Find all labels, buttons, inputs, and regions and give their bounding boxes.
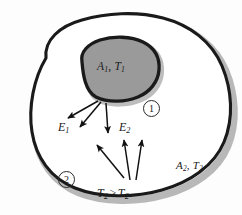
figure-canvas xyxy=(0,0,242,215)
e1-sub: 1 xyxy=(65,126,69,135)
radiation-enclosure-figure: A1, T1 E1 E2 A2, T2 T2>T2 1 2 xyxy=(0,0,242,215)
surface-badge-2-text: 2 xyxy=(64,174,69,185)
outer-enclosure-label: A2, T2 xyxy=(176,160,203,172)
inequality-right-symbol: T xyxy=(118,186,125,200)
surface-badge-1: 1 xyxy=(143,100,160,117)
inequality-right-sub: 2 xyxy=(125,192,129,201)
e2-sub: 2 xyxy=(126,126,130,135)
inequality-left-sub: 2 xyxy=(104,192,108,201)
surface-badge-2: 2 xyxy=(58,171,75,188)
inequality-operator: > xyxy=(109,186,118,200)
inner-temp-sub: 1 xyxy=(121,65,125,74)
temperature-inequality-label: T2>T2 xyxy=(97,187,129,201)
inner-body-label: A1, T1 xyxy=(97,61,125,74)
outer-area-symbol: A xyxy=(176,159,183,171)
emission-e2-label: E2 xyxy=(119,121,130,135)
outer-temp-sub: 2 xyxy=(199,164,203,173)
surface-badge-1-text: 1 xyxy=(149,103,154,114)
emission-e1-label: E1 xyxy=(58,121,69,135)
